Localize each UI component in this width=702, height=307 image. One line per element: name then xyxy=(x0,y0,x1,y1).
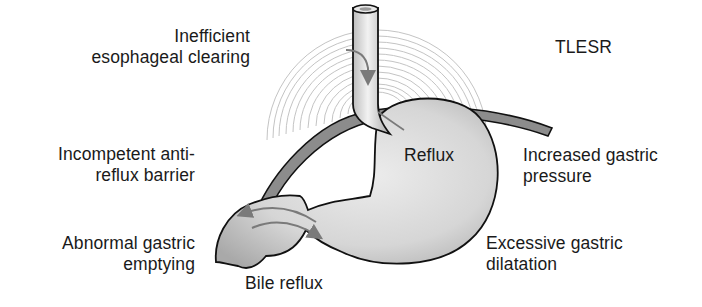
label-bile-reflux: Bile reflux xyxy=(245,273,323,294)
label-incompetent-antireflux-barrier: Incompetent anti- reflux barrier xyxy=(58,144,195,186)
label-increased-gastric-pressure: Increased gastric pressure xyxy=(523,145,658,187)
label-inefficient-esophageal-clearing: Inefficient esophageal clearing xyxy=(91,26,250,68)
label-tlesr: TLESR xyxy=(555,37,612,58)
label-reflux: Reflux xyxy=(404,145,454,166)
label-excessive-gastric-dilatation: Excessive gastric dilatation xyxy=(486,233,623,275)
gerd-diagram: Inefficient esophageal clearing TLESR In… xyxy=(0,0,702,307)
label-abnormal-gastric-emptying: Abnormal gastric emptying xyxy=(62,233,195,275)
